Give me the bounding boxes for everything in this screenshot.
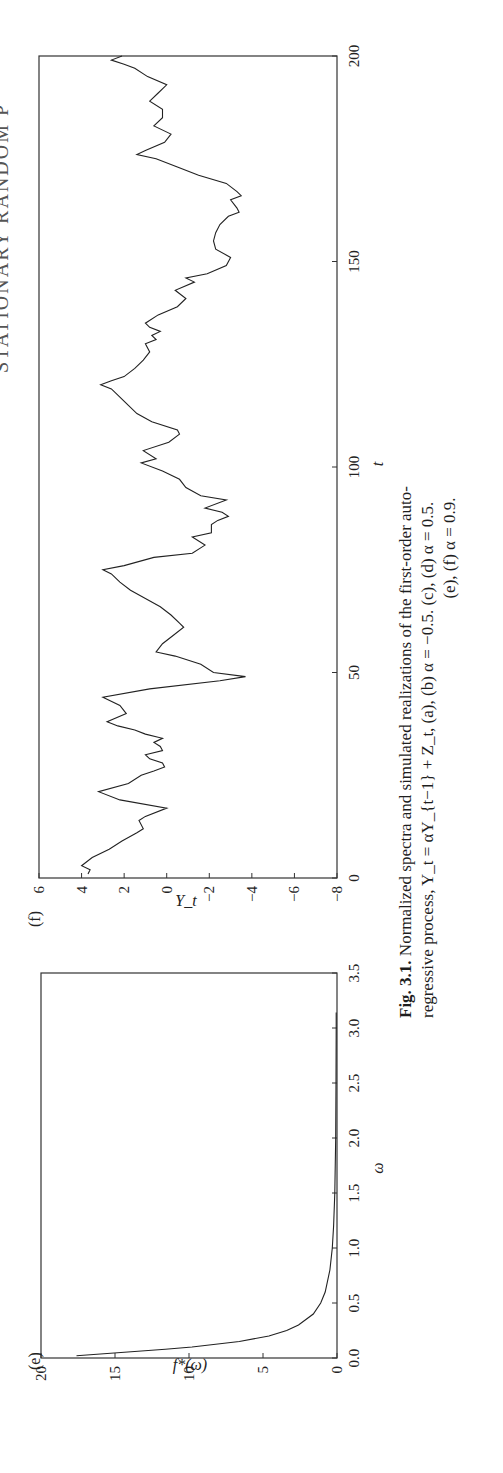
panel-e-frame: [41, 973, 337, 1358]
svg-text:3.5: 3.5: [346, 964, 362, 983]
rotated-book-page: STATIONARY RANDOM P 0.00.51.01.52.02.53.…: [0, 0, 503, 1473]
panel-f-realization-plot: 050100150200 6420−2−4−6−8 (f) t Y_t: [26, 45, 386, 927]
svg-text:150: 150: [346, 250, 362, 273]
svg-text:0.5: 0.5: [346, 1294, 362, 1313]
caption-line-1: Fig. 3.1. Normalized spectra and simulat…: [395, 78, 417, 1018]
svg-text:1.0: 1.0: [346, 1239, 362, 1258]
svg-text:2.0: 2.0: [346, 1129, 362, 1148]
svg-text:−4: −4: [244, 886, 260, 902]
svg-text:50: 50: [346, 665, 362, 680]
svg-text:−6: −6: [286, 886, 302, 902]
svg-text:5: 5: [255, 1366, 271, 1374]
panel-f-x-axis-label: t: [369, 461, 386, 466]
panel-e-label: (e): [26, 1352, 44, 1370]
svg-text:15: 15: [107, 1366, 123, 1381]
svg-text:−2: −2: [201, 886, 217, 902]
panel-e-spectrum-plot: 0.00.51.01.52.02.53.03.5 05101520 (e) ω …: [26, 964, 386, 1381]
panel-e-x-axis-label: ω: [369, 1162, 386, 1173]
panel-e-spectrum-curve: [77, 1013, 337, 1356]
svg-text:−8: −8: [329, 886, 345, 902]
panel-f-frame: [39, 56, 337, 878]
svg-text:2: 2: [116, 886, 132, 894]
caption-line-2: regressive process, Y_t = αY_{t−1} + Z_t…: [417, 78, 439, 1018]
svg-text:4: 4: [74, 886, 90, 894]
svg-text:0: 0: [346, 874, 362, 882]
svg-text:200: 200: [346, 45, 362, 68]
svg-text:0: 0: [329, 1366, 345, 1374]
caption-line-3: (e), (f) α = 0.9.: [439, 78, 461, 1018]
svg-text:0: 0: [159, 886, 175, 894]
panel-f-series-line: [82, 56, 246, 874]
svg-text:1.5: 1.5: [346, 1184, 362, 1203]
svg-text:0.0: 0.0: [346, 1349, 362, 1368]
svg-text:6: 6: [31, 886, 47, 894]
panel-f-y-axis-label: Y_t: [175, 892, 197, 909]
svg-text:3.0: 3.0: [346, 1019, 362, 1038]
figure-number: Fig. 3.1.: [396, 960, 415, 1018]
panel-e-y-axis-label: f*(ω): [173, 1356, 207, 1374]
svg-text:2.5: 2.5: [346, 1074, 362, 1093]
svg-text:100: 100: [346, 456, 362, 479]
panel-f-label: (f): [26, 911, 44, 927]
figure-caption: Fig. 3.1. Normalized spectra and simulat…: [395, 78, 461, 1018]
caption-text-1: Normalized spectra and simulated realiza…: [396, 486, 415, 956]
